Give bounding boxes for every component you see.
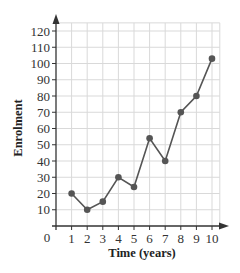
y-tick-label: 40 xyxy=(37,154,50,169)
line-chart: 102030405060708090100110120 12345678910 … xyxy=(0,0,240,273)
x-tick-label: 7 xyxy=(162,231,169,246)
data-point-marker xyxy=(162,158,169,165)
data-point-marker xyxy=(146,135,153,142)
data-point-marker xyxy=(68,190,75,197)
grid-lines xyxy=(56,23,220,226)
x-axis-ticks: 12345678910 xyxy=(68,226,218,246)
data-point-marker xyxy=(131,184,138,191)
x-axis-title: Time (years) xyxy=(108,246,175,260)
data-point-marker xyxy=(178,109,185,116)
y-tick-label: 70 xyxy=(37,105,50,120)
y-tick-label: 30 xyxy=(37,170,50,185)
x-tick-label: 9 xyxy=(193,231,200,246)
x-tick-label: 4 xyxy=(115,231,122,246)
y-tick-label: 110 xyxy=(31,40,50,55)
x-tick-label: 5 xyxy=(131,231,138,246)
data-point-marker xyxy=(115,174,122,181)
data-point-marker xyxy=(193,93,200,100)
axes xyxy=(52,14,229,230)
y-tick-label: 80 xyxy=(37,89,50,104)
y-tick-label: 20 xyxy=(37,186,50,201)
x-tick-label: 10 xyxy=(206,231,219,246)
x-tick-label: 1 xyxy=(68,231,75,246)
origin-label: 0 xyxy=(44,230,51,245)
data-point-marker xyxy=(100,198,107,205)
y-tick-label: 60 xyxy=(37,121,50,136)
y-tick-label: 100 xyxy=(31,56,51,71)
x-tick-label: 8 xyxy=(178,231,185,246)
data-markers xyxy=(68,55,215,213)
x-axis-arrow-icon xyxy=(219,223,229,230)
x-tick-label: 6 xyxy=(146,231,153,246)
data-point-marker xyxy=(84,206,91,213)
y-tick-label: 50 xyxy=(37,137,50,152)
data-line xyxy=(72,59,212,210)
x-tick-label: 2 xyxy=(84,231,91,246)
x-tick-label: 3 xyxy=(100,231,107,246)
y-tick-label: 120 xyxy=(31,24,51,39)
y-tick-label: 90 xyxy=(37,72,50,87)
y-tick-label: 10 xyxy=(37,202,50,217)
y-axis-ticks: 102030405060708090100110120 xyxy=(31,24,57,218)
data-point-marker xyxy=(209,55,216,62)
y-axis-title: Enrolment xyxy=(11,98,25,156)
y-axis-arrow-icon xyxy=(53,14,60,24)
